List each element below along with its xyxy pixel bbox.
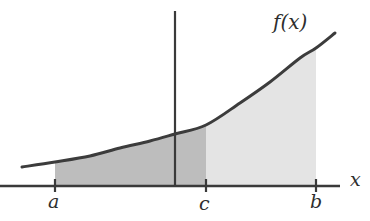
x-axis-label: x	[350, 170, 361, 189]
shaded-region-c-to-b	[206, 48, 316, 186]
tick-label-b: b	[310, 192, 322, 211]
figure-canvas	[0, 0, 370, 221]
function-label: f(x)	[273, 12, 307, 32]
tick-label-c: c	[199, 194, 210, 213]
integral-figure: f(x) a c b x	[0, 0, 370, 221]
shaded-region-a-to-c	[55, 125, 206, 186]
tick-label-a: a	[48, 192, 59, 211]
